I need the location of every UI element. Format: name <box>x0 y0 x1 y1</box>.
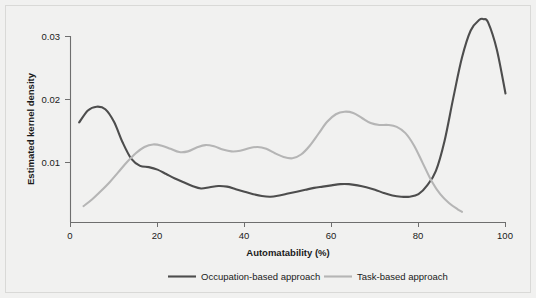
x-tick-label: 100 <box>497 230 513 241</box>
x-tick-label: 60 <box>326 230 337 241</box>
x-tick-label: 0 <box>67 230 72 241</box>
x-axis-ticks: 0 20 40 60 80 100 <box>67 222 513 241</box>
x-tick-label: 20 <box>152 230 163 241</box>
x-tick-label: 40 <box>239 230 250 241</box>
x-tick-label: 80 <box>413 230 424 241</box>
y-tick-label: 0.02 <box>42 94 61 105</box>
series-line-occupation-based <box>79 19 505 197</box>
legend-label-task-based: Task-based approach <box>357 271 448 282</box>
legend-label-occupation-based: Occupation-based approach <box>201 271 320 282</box>
y-tick-label: 0.01 <box>42 157 61 168</box>
y-axis-ticks: 0.03 0.02 0.01 <box>42 31 71 168</box>
x-axis-title: Automatability (%) <box>246 247 329 258</box>
y-axis-title: Estimated kernel density <box>25 72 36 185</box>
series-group <box>79 19 505 212</box>
chart-plot-area: 0.03 0.02 0.01 0 20 40 60 80 100 Automat… <box>0 0 536 298</box>
y-tick-label: 0.03 <box>42 31 61 42</box>
chart-legend: Occupation-based approach Task-based app… <box>168 271 448 282</box>
kernel-density-figure: 0.03 0.02 0.01 0 20 40 60 80 100 Automat… <box>0 0 536 298</box>
